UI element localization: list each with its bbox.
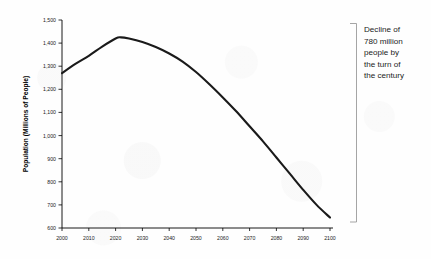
x-tick-label: 2040 xyxy=(163,235,175,241)
y-tick-label: 1,200 xyxy=(43,86,56,92)
population-series-line xyxy=(62,37,330,217)
annotation-callout: Decline of 780 million people by the tur… xyxy=(364,24,428,82)
x-tick-label: 2030 xyxy=(137,235,149,241)
y-tick-label: 600 xyxy=(47,225,56,231)
annotation-line-5: the century xyxy=(364,70,428,82)
annotation-line-1: Decline of xyxy=(364,24,428,36)
x-tick-label: 2080 xyxy=(271,235,283,241)
y-tick-label: 1,400 xyxy=(43,40,56,46)
annotation-line-2: 780 million xyxy=(364,36,428,48)
chart-page: 600 700 800 900 1,000 1,100 1,200 1,300 … xyxy=(0,0,431,259)
x-tick-label: 2010 xyxy=(83,235,95,241)
x-axis-tick-labels: 2000 2010 2020 2030 2040 2050 2060 2070 … xyxy=(56,235,336,241)
annotation-line-4: the turn of xyxy=(364,59,428,71)
x-tick-label: 2000 xyxy=(56,235,68,241)
y-tick-label: 1,100 xyxy=(43,109,56,115)
x-tick-label: 2100 xyxy=(324,235,336,241)
x-tick-label: 2090 xyxy=(297,235,309,241)
y-axis-ticks xyxy=(59,20,63,228)
y-tick-label: 1,500 xyxy=(43,17,56,23)
x-tick-label: 2070 xyxy=(244,235,256,241)
annotation-bracket xyxy=(350,24,357,223)
y-tick-label: 800 xyxy=(47,179,56,185)
y-axis-title: Population (Millions of People) xyxy=(22,76,30,172)
y-axis-tick-labels: 600 700 800 900 1,000 1,100 1,200 1,300 … xyxy=(43,17,56,231)
x-tick-label: 2060 xyxy=(217,235,229,241)
y-tick-label: 900 xyxy=(47,156,56,162)
annotation-line-3: people by xyxy=(364,47,428,59)
y-tick-label: 1,000 xyxy=(43,133,56,139)
y-tick-label: 700 xyxy=(47,202,56,208)
x-tick-label: 2020 xyxy=(110,235,122,241)
y-tick-label: 1,300 xyxy=(43,63,56,69)
x-tick-label: 2050 xyxy=(190,235,202,241)
